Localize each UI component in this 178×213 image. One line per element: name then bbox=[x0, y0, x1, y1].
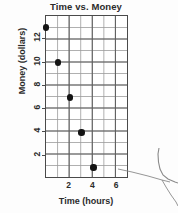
data-point bbox=[43, 24, 49, 30]
y-tick-label: 6 bbox=[32, 100, 42, 114]
plot-area bbox=[45, 15, 128, 178]
y-tick-label: 10 bbox=[32, 54, 42, 68]
y-tick-label: 12 bbox=[32, 30, 42, 44]
y-tick-label: 4 bbox=[32, 123, 42, 137]
data-point-series bbox=[46, 16, 127, 177]
data-point bbox=[67, 94, 73, 100]
x-tick-label: 4 bbox=[85, 180, 99, 190]
y-tick-label: 2 bbox=[32, 147, 42, 161]
chart-page: Time vs. Money Money (dollars) Time (hou… bbox=[0, 0, 178, 213]
y-tick-label: 8 bbox=[32, 77, 42, 91]
x-tick-label: 6 bbox=[109, 180, 123, 190]
data-point bbox=[55, 59, 61, 65]
x-axis-label: Time (hours) bbox=[30, 196, 142, 206]
data-point bbox=[90, 164, 96, 170]
y-axis-label: Money (dollars) bbox=[17, 1, 27, 121]
x-tick-label: 2 bbox=[62, 180, 76, 190]
chart-title: Time vs. Money bbox=[44, 1, 128, 12]
data-point bbox=[78, 129, 84, 135]
